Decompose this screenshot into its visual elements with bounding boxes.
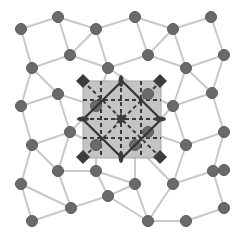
- lattice-node: [143, 216, 154, 227]
- lattice-edge: [173, 106, 186, 145]
- lattice-node: [53, 89, 64, 100]
- lattice-node: [91, 24, 102, 35]
- lattice-edge: [21, 145, 32, 184]
- lattice-node: [16, 179, 27, 190]
- center-star-icon: [114, 112, 128, 126]
- lattice-node: [143, 89, 154, 100]
- lattice-node: [181, 63, 192, 74]
- lattice-edge: [173, 93, 212, 106]
- lattice-edge: [186, 55, 224, 68]
- lattice-edge: [212, 93, 224, 132]
- lattice-node: [168, 24, 179, 35]
- lattice-node: [207, 88, 218, 99]
- lattice-node: [168, 101, 179, 112]
- lattice-edge: [148, 184, 173, 221]
- lattice-node: [143, 50, 154, 61]
- lattice-node: [53, 166, 64, 177]
- lattice-node: [27, 216, 38, 227]
- lattice-node: [219, 203, 230, 214]
- lattice-node: [66, 203, 77, 214]
- lattice-edge: [135, 17, 148, 55]
- lattice-edge: [173, 29, 186, 68]
- lattice-edge: [70, 55, 108, 68]
- lattice-node: [65, 127, 76, 138]
- lattice-diagram: [0, 0, 242, 237]
- lattice-edge: [173, 145, 186, 184]
- lattice-node: [168, 179, 179, 190]
- lattice-node: [16, 101, 27, 112]
- lattice-node: [65, 50, 76, 61]
- lattice-node: [91, 140, 102, 151]
- lattice-edge: [58, 132, 70, 171]
- lattice-edge: [32, 208, 71, 221]
- lattice-node: [181, 140, 192, 151]
- lattice-node: [219, 127, 230, 138]
- lattice-node: [103, 63, 114, 74]
- lattice-edge: [32, 132, 70, 145]
- lattice-edge: [108, 55, 148, 68]
- lattice-edge: [32, 55, 70, 68]
- lattice-edge: [173, 68, 186, 106]
- ellipse-marker-icon: [154, 117, 166, 122]
- lattice-node: [91, 166, 102, 177]
- lattice-node: [206, 12, 217, 23]
- lattice-edge: [148, 55, 186, 68]
- ellipse-marker-icon: [119, 151, 124, 163]
- lattice-edge: [96, 29, 108, 68]
- lattice-edge: [21, 106, 32, 145]
- lattice-edge: [21, 29, 32, 68]
- lattice-node: [16, 24, 27, 35]
- lattice-node: [130, 179, 141, 190]
- lattice-node: [219, 50, 230, 61]
- lattice-edge: [173, 171, 213, 184]
- lattice-node: [103, 191, 114, 202]
- ellipse-marker-icon: [119, 75, 124, 87]
- lattice-edge: [186, 208, 224, 221]
- lattice-node: [53, 12, 64, 23]
- lattice-edge: [96, 17, 135, 29]
- lattice-node: [130, 12, 141, 23]
- lattice-edge: [108, 196, 148, 221]
- ellipse-marker-icon: [77, 117, 89, 122]
- lattice-node: [27, 63, 38, 74]
- lattice-edge: [186, 132, 224, 145]
- lattice-node: [181, 216, 192, 227]
- lattice-node: [27, 140, 38, 151]
- lattice-node: [219, 165, 230, 176]
- lattice-edge: [211, 17, 224, 55]
- lattice-node: [208, 166, 219, 177]
